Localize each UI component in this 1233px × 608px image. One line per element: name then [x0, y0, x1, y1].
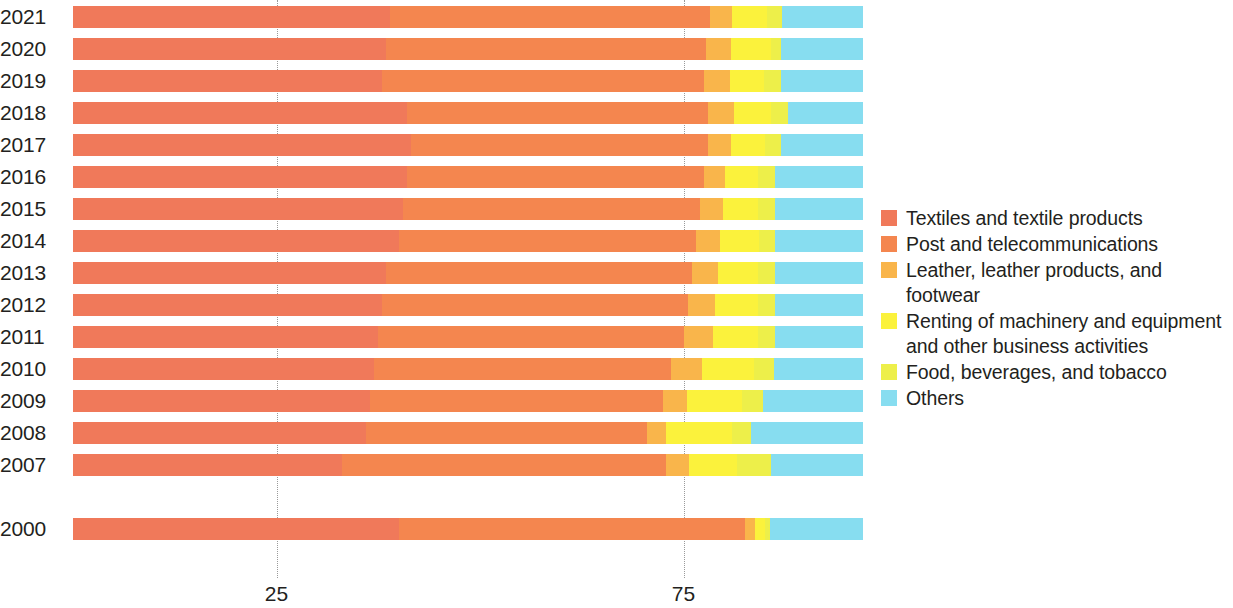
bar-segment[interactable]	[73, 358, 374, 380]
bar-segment[interactable]	[382, 70, 704, 92]
bar-segment[interactable]	[407, 166, 704, 188]
bar-segment[interactable]	[742, 390, 763, 412]
stacked-bar-2016[interactable]	[73, 166, 863, 188]
bar-segment[interactable]	[700, 198, 723, 220]
bar-segment[interactable]	[754, 358, 774, 380]
bar-segment[interactable]	[663, 390, 687, 412]
bar-segment[interactable]	[758, 166, 776, 188]
bar-segment[interactable]	[734, 102, 771, 124]
bar-segment[interactable]	[692, 262, 718, 284]
bar-segment[interactable]	[73, 70, 382, 92]
bar-segment[interactable]	[702, 358, 754, 380]
bar-segment[interactable]	[781, 134, 862, 156]
bar-segment[interactable]	[708, 102, 734, 124]
bar-segment[interactable]	[723, 198, 759, 220]
bar-segment[interactable]	[710, 6, 733, 28]
bar-segment[interactable]	[775, 166, 862, 188]
bar-segment[interactable]	[696, 230, 720, 252]
bar-segment[interactable]	[775, 262, 863, 284]
bar-segment[interactable]	[647, 422, 667, 444]
stacked-bar-2013[interactable]	[73, 262, 863, 284]
bar-segment[interactable]	[378, 326, 683, 348]
bar-segment[interactable]	[771, 454, 862, 476]
stacked-bar-2019[interactable]	[73, 70, 863, 92]
bar-segment[interactable]	[758, 294, 775, 316]
bar-segment[interactable]	[73, 134, 411, 156]
bar-segment[interactable]	[704, 70, 730, 92]
stacked-bar-2018[interactable]	[73, 102, 863, 124]
bar-segment[interactable]	[403, 198, 700, 220]
bar-segment[interactable]	[73, 454, 342, 476]
bar-segment[interactable]	[386, 262, 691, 284]
stacked-bar-2014[interactable]	[73, 230, 863, 252]
bar-segment[interactable]	[758, 262, 774, 284]
bar-segment[interactable]	[771, 102, 787, 124]
bar-segment[interactable]	[737, 454, 771, 476]
bar-segment[interactable]	[399, 230, 696, 252]
bar-segment[interactable]	[775, 198, 863, 220]
bar-segment[interactable]	[411, 134, 708, 156]
bar-segment[interactable]	[758, 326, 774, 348]
stacked-bar-2020[interactable]	[73, 38, 863, 60]
bar-segment[interactable]	[73, 38, 386, 60]
bar-segment[interactable]	[745, 518, 755, 540]
bar-segment[interactable]	[671, 358, 702, 380]
bar-segment[interactable]	[687, 390, 742, 412]
bar-segment[interactable]	[732, 422, 752, 444]
bar-segment[interactable]	[73, 166, 407, 188]
bar-segment[interactable]	[788, 102, 863, 124]
bar-segment[interactable]	[771, 38, 781, 60]
bar-segment[interactable]	[764, 70, 781, 92]
bar-segment[interactable]	[73, 262, 386, 284]
bar-segment[interactable]	[725, 166, 758, 188]
bar-segment[interactable]	[73, 294, 382, 316]
bar-segment[interactable]	[713, 326, 759, 348]
bar-segment[interactable]	[382, 294, 687, 316]
bar-segment[interactable]	[73, 390, 370, 412]
bar-segment[interactable]	[731, 134, 765, 156]
bar-segment[interactable]	[704, 166, 725, 188]
stacked-bar-2017[interactable]	[73, 134, 863, 156]
bar-segment[interactable]	[708, 134, 731, 156]
bar-segment[interactable]	[751, 422, 863, 444]
bar-segment[interactable]	[730, 70, 764, 92]
bar-segment[interactable]	[781, 70, 862, 92]
bar-segment[interactable]	[374, 358, 671, 380]
bar-segment[interactable]	[774, 358, 863, 380]
bar-segment[interactable]	[775, 294, 863, 316]
bar-segment[interactable]	[755, 518, 765, 540]
bar-segment[interactable]	[781, 38, 862, 60]
bar-segment[interactable]	[73, 102, 407, 124]
stacked-bar-2011[interactable]	[73, 326, 863, 348]
bar-segment[interactable]	[73, 230, 399, 252]
bar-segment[interactable]	[73, 518, 399, 540]
bar-segment[interactable]	[782, 6, 863, 28]
legend-item[interactable]: Leather, leather products, and footwear	[881, 258, 1233, 308]
legend-item[interactable]: Post and telecommunications	[881, 232, 1233, 257]
bar-segment[interactable]	[758, 198, 774, 220]
bar-segment[interactable]	[666, 454, 689, 476]
bar-segment[interactable]	[775, 230, 862, 252]
bar-segment[interactable]	[689, 454, 737, 476]
legend-item[interactable]: Others	[881, 386, 1233, 411]
bar-segment[interactable]	[73, 422, 366, 444]
bar-segment[interactable]	[759, 230, 775, 252]
bar-segment[interactable]	[73, 198, 403, 220]
bar-segment[interactable]	[775, 326, 863, 348]
bar-segment[interactable]	[386, 38, 706, 60]
stacked-bar-2010[interactable]	[73, 358, 863, 380]
legend-item[interactable]: Food, beverages, and tobacco	[881, 360, 1233, 385]
bar-segment[interactable]	[366, 422, 647, 444]
legend-item[interactable]: Textiles and textile products	[881, 206, 1233, 231]
bar-segment[interactable]	[732, 6, 767, 28]
bar-segment[interactable]	[715, 294, 757, 316]
stacked-bar-2009[interactable]	[73, 390, 863, 412]
bar-segment[interactable]	[731, 38, 772, 60]
bar-segment[interactable]	[688, 294, 716, 316]
bar-segment[interactable]	[666, 422, 731, 444]
bar-segment[interactable]	[718, 262, 759, 284]
stacked-bar-2021[interactable]	[73, 6, 863, 28]
bar-segment[interactable]	[720, 230, 759, 252]
bar-segment[interactable]	[399, 518, 746, 540]
bar-segment[interactable]	[342, 454, 667, 476]
